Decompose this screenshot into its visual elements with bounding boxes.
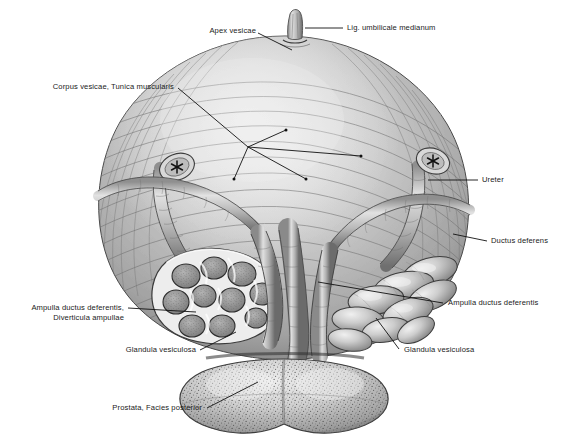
- anatomical-figure: Apex vesicae Lig. umbilicale medianum Co…: [0, 0, 569, 438]
- label-ductus-deferens: Ductus deferens: [491, 236, 548, 246]
- label-ampulla-ductus-deferentis-left: Ampulla ductus deferentis, Diverticula a…: [0, 303, 124, 323]
- label-apex-vesicae: Apex vesicae: [110, 26, 256, 36]
- label-prostata: Prostata, Facies posterior: [40, 403, 202, 413]
- label-lig-umbilicale-medianum: Lig. umbilicale medianum: [347, 23, 436, 33]
- label-glandula-vesiculosa-right: Glandula vesiculosa: [404, 345, 474, 355]
- label-corpus-vesicae: Corpus vesicae, Tunica muscularis: [2, 82, 174, 92]
- label-ampulla-ductus-deferentis-right: Ampulla ductus deferentis: [448, 298, 538, 308]
- figure-artwork: [0, 0, 569, 438]
- label-ampulla-left-line1: Ampulla ductus deferentis,: [31, 303, 124, 312]
- prostata: [176, 354, 396, 438]
- label-ureter: Ureter: [482, 175, 504, 185]
- label-glandula-vesiculosa-left: Glandula vesiculosa: [40, 345, 196, 355]
- label-ampulla-left-line2: Diverticula ampullae: [53, 313, 124, 322]
